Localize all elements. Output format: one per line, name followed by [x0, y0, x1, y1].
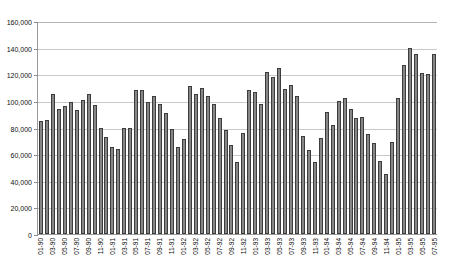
- bar[interactable]: [396, 98, 400, 234]
- bar[interactable]: [152, 96, 156, 234]
- bar[interactable]: [69, 102, 73, 234]
- bar[interactable]: [87, 94, 91, 234]
- bar[interactable]: [378, 161, 382, 234]
- bar[interactable]: [277, 68, 281, 234]
- bar[interactable]: [313, 162, 317, 234]
- bar[interactable]: [265, 72, 269, 234]
- y-axis-tick-label: 80,000: [0, 125, 32, 132]
- bar[interactable]: [354, 118, 358, 234]
- bar[interactable]: [247, 90, 251, 234]
- bar[interactable]: [289, 85, 293, 234]
- bar[interactable]: [134, 90, 138, 234]
- bar[interactable]: [271, 77, 275, 234]
- x-axis-tick-slot: 07-95: [431, 236, 437, 279]
- y-axis-tick-label: 140,000: [0, 45, 32, 52]
- y-axis-tick-label: 60,000: [0, 152, 32, 159]
- bar[interactable]: [146, 102, 150, 234]
- bar[interactable]: [188, 86, 192, 234]
- bar[interactable]: [39, 121, 43, 234]
- bar[interactable]: [426, 74, 430, 234]
- bar[interactable]: [122, 128, 126, 235]
- bar[interactable]: [229, 145, 233, 234]
- bar[interactable]: [93, 105, 97, 234]
- x-axis-tick-label: 07-95: [430, 238, 437, 255]
- bar[interactable]: [331, 125, 335, 234]
- bar[interactable]: [218, 118, 222, 234]
- bar[interactable]: [63, 106, 67, 234]
- bar[interactable]: [57, 109, 61, 234]
- bar[interactable]: [283, 89, 287, 234]
- plot-area: [37, 22, 437, 235]
- bar[interactable]: [176, 147, 180, 234]
- bar[interactable]: [432, 54, 436, 234]
- bar[interactable]: [253, 92, 257, 234]
- bar[interactable]: [212, 104, 216, 234]
- bar[interactable]: [182, 139, 186, 234]
- bar[interactable]: [81, 100, 85, 234]
- bar[interactable]: [128, 128, 132, 235]
- bar[interactable]: [384, 174, 388, 234]
- bar[interactable]: [295, 96, 299, 234]
- bar-series: [38, 22, 437, 234]
- bar[interactable]: [337, 101, 341, 234]
- bar[interactable]: [259, 104, 263, 234]
- bar[interactable]: [170, 129, 174, 234]
- bar[interactable]: [51, 94, 55, 234]
- bar[interactable]: [414, 54, 418, 234]
- bar[interactable]: [325, 112, 329, 234]
- bar[interactable]: [360, 117, 364, 234]
- y-axis-labels: 160,000140,000120,000100,00080,00060,000…: [0, 22, 32, 235]
- bar[interactable]: [301, 136, 305, 235]
- bar[interactable]: [200, 88, 204, 234]
- y-axis-tick-label: 160,000: [0, 19, 32, 26]
- x-axis-labels: 01-9003-9005-9007-9009-9011-9001-9103-91…: [37, 236, 437, 279]
- bar[interactable]: [194, 94, 198, 234]
- bar-chart: 160,000140,000120,000100,00080,00060,000…: [0, 0, 453, 279]
- bar[interactable]: [372, 143, 376, 234]
- bar[interactable]: [349, 109, 353, 234]
- bar[interactable]: [164, 113, 168, 234]
- bar-slot: [431, 22, 437, 234]
- bar[interactable]: [75, 110, 79, 234]
- bar[interactable]: [99, 128, 103, 235]
- y-axis-tick-label: 100,000: [0, 98, 32, 105]
- bar[interactable]: [307, 150, 311, 234]
- bar[interactable]: [420, 73, 424, 234]
- y-axis-tick-label: 40,000: [0, 178, 32, 185]
- bar[interactable]: [110, 147, 114, 234]
- bar[interactable]: [390, 142, 394, 234]
- bar[interactable]: [158, 104, 162, 234]
- bar[interactable]: [224, 130, 228, 234]
- bar[interactable]: [319, 138, 323, 234]
- bar[interactable]: [116, 149, 120, 234]
- bar[interactable]: [104, 137, 108, 234]
- bar[interactable]: [402, 65, 406, 234]
- y-axis-tick-label: 120,000: [0, 72, 32, 79]
- y-axis-tick-label: 20,000: [0, 205, 32, 212]
- bar[interactable]: [45, 120, 49, 234]
- bar[interactable]: [235, 162, 239, 234]
- bar[interactable]: [408, 48, 412, 234]
- bar[interactable]: [366, 134, 370, 234]
- bar[interactable]: [140, 90, 144, 234]
- bar[interactable]: [241, 133, 245, 234]
- bar[interactable]: [343, 98, 347, 234]
- bar[interactable]: [206, 96, 210, 234]
- y-axis-tick-label: 0: [0, 232, 32, 239]
